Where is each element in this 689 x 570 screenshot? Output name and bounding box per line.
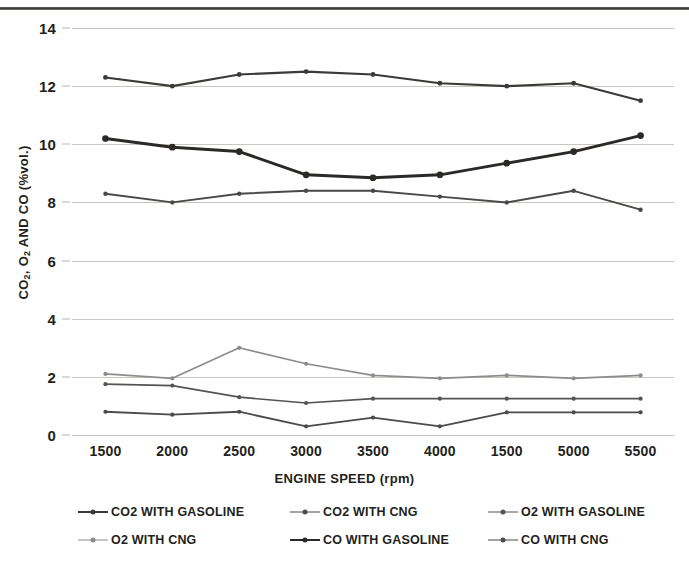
data-point	[170, 376, 174, 380]
y-axis-title-co2: CO	[16, 279, 31, 299]
data-point	[571, 81, 576, 86]
y-axis-tick: 0	[0, 427, 56, 444]
legend-item[interactable]: CO2 WITH GASOLINE	[78, 505, 244, 519]
data-point	[438, 397, 442, 401]
data-point	[371, 397, 375, 401]
y-axis-tick-mark	[62, 28, 70, 29]
legend-item[interactable]: CO WITH GASOLINE	[290, 533, 449, 547]
data-point	[103, 410, 107, 414]
legend-item[interactable]: O2 WITH CNG	[78, 533, 197, 547]
y-axis-title-rest: AND CO (%vol.)	[16, 145, 31, 250]
legend-label: CO2 WITH GASOLINE	[111, 505, 244, 519]
data-point	[237, 72, 242, 77]
y-axis-tick: 2	[0, 368, 56, 385]
data-point	[437, 81, 442, 86]
legend-swatch-icon	[290, 506, 320, 518]
data-point	[304, 401, 308, 405]
x-axis-tick: 2500	[223, 443, 255, 459]
data-point	[504, 84, 509, 89]
y-axis-tick-mark	[62, 318, 70, 319]
x-axis-tick: 5000	[558, 443, 590, 459]
chart-container: 14121086420 1500200025003000350040001500…	[0, 0, 689, 570]
legend-swatch-icon	[290, 534, 320, 546]
x-axis-title: ENGINE SPEED (rpm)	[0, 471, 689, 486]
data-point	[371, 72, 376, 77]
x-axis-tick: 5500	[625, 443, 657, 459]
plot-area	[72, 28, 674, 435]
data-point	[371, 189, 375, 193]
data-point	[505, 200, 509, 204]
y-axis-tick: 12	[0, 78, 56, 95]
y-axis-title-o2: , O	[16, 256, 31, 274]
data-point	[638, 373, 642, 377]
y-axis-tick-labels: 14121086420	[0, 28, 62, 435]
data-point	[304, 362, 308, 366]
x-axis-tick: 1500	[491, 443, 523, 459]
data-point	[437, 171, 444, 178]
data-point	[371, 415, 375, 419]
data-point	[637, 132, 644, 139]
data-point	[102, 135, 109, 142]
x-axis-tick: 4000	[424, 443, 456, 459]
legend-swatch-icon	[488, 506, 518, 518]
data-point	[505, 397, 509, 401]
data-point	[304, 189, 308, 193]
data-point	[103, 382, 107, 386]
data-point	[438, 194, 442, 198]
x-axis-tick: 3000	[290, 443, 322, 459]
chart-legend: CO2 WITH GASOLINECO2 WITH CNGO2 WITH GAS…	[78, 505, 678, 563]
data-point	[237, 410, 241, 414]
legend-label: CO WITH CNG	[521, 533, 609, 547]
legend-label: O2 WITH CNG	[111, 533, 197, 547]
x-axis-tick-labels: 150020002500300035004000150050005500	[72, 443, 674, 465]
data-point	[638, 410, 642, 414]
data-point	[103, 192, 107, 196]
data-point	[236, 148, 243, 155]
legend-swatch-icon	[78, 534, 108, 546]
data-point	[170, 413, 174, 417]
legend-label: CO2 WITH CNG	[323, 505, 418, 519]
y-axis-tick-mark	[62, 435, 70, 436]
y-axis-tick-mark	[62, 144, 70, 145]
legend-swatch-icon	[488, 534, 518, 546]
data-point	[237, 192, 241, 196]
y-axis-tick-mark	[62, 260, 70, 261]
legend-item[interactable]: CO WITH CNG	[488, 533, 609, 547]
data-point	[169, 144, 176, 151]
y-axis-title-co2-sub: 2	[22, 274, 32, 279]
data-point	[170, 200, 174, 204]
y-axis-title-o2-sub: 2	[22, 251, 32, 256]
legend-label: O2 WITH GASOLINE	[521, 505, 645, 519]
legend-item[interactable]: CO2 WITH CNG	[290, 505, 418, 519]
data-point	[570, 148, 577, 155]
data-point	[103, 75, 108, 80]
x-axis-tick: 3500	[357, 443, 389, 459]
data-point	[237, 395, 241, 399]
data-point	[304, 69, 309, 74]
y-axis-tick-mark	[62, 202, 70, 203]
data-point	[103, 372, 107, 376]
data-point	[638, 397, 642, 401]
data-point	[572, 397, 576, 401]
series-line	[105, 191, 640, 210]
data-point	[370, 174, 377, 181]
legend-item[interactable]: O2 WITH GASOLINE	[488, 505, 645, 519]
y-axis-tick-mark	[62, 86, 70, 87]
data-point	[303, 171, 310, 178]
data-point	[304, 424, 308, 428]
legend-swatch-icon	[78, 506, 108, 518]
data-point	[503, 160, 510, 167]
data-point	[438, 376, 442, 380]
y-axis-tick-mark	[62, 376, 70, 377]
data-point	[170, 84, 175, 89]
series-lines	[72, 28, 674, 435]
data-point	[572, 410, 576, 414]
data-point	[371, 373, 375, 377]
data-point	[638, 98, 643, 103]
data-point	[438, 424, 442, 428]
data-point	[237, 346, 241, 350]
gridline	[72, 435, 674, 436]
x-axis-tick: 2000	[156, 443, 188, 459]
series-line	[105, 136, 640, 178]
data-point	[170, 383, 174, 387]
